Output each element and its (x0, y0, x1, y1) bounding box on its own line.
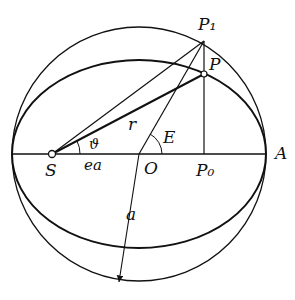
label-a-point: A (273, 143, 287, 163)
label-r: r (128, 114, 137, 134)
focus-s-point (49, 151, 56, 158)
line-s-p1 (52, 41, 204, 154)
theta-arc (77, 141, 80, 154)
point-p (201, 71, 207, 77)
label-s: S (45, 160, 57, 180)
label-a-radius: a (126, 204, 136, 224)
label-p0: P₀ (195, 160, 214, 180)
kepler-diagram: P₁ P r ϑ E S ea O P₀ A a (0, 0, 295, 300)
label-p1: P₁ (197, 14, 216, 34)
label-o: O (144, 158, 158, 178)
label-theta: ϑ (89, 136, 99, 152)
label-e: E (162, 127, 176, 147)
label-ea: ea (84, 156, 102, 174)
E-arc (150, 134, 162, 154)
label-p: P (208, 54, 221, 74)
